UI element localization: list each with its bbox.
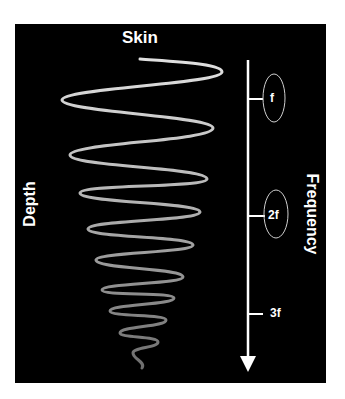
tick-label-3f: 3f [270, 306, 281, 320]
depth-axis-label: Depth [21, 181, 39, 226]
frequency-axis-label: Frequency [303, 174, 321, 255]
tick-label-2f: 2f [268, 208, 279, 222]
tick-label-f: f [270, 91, 274, 105]
wave-diagram [0, 0, 345, 399]
arrow-down-icon [240, 356, 256, 372]
attenuating-wave [62, 59, 222, 368]
circle-f [263, 74, 285, 122]
skin-label: Skin [122, 28, 158, 48]
